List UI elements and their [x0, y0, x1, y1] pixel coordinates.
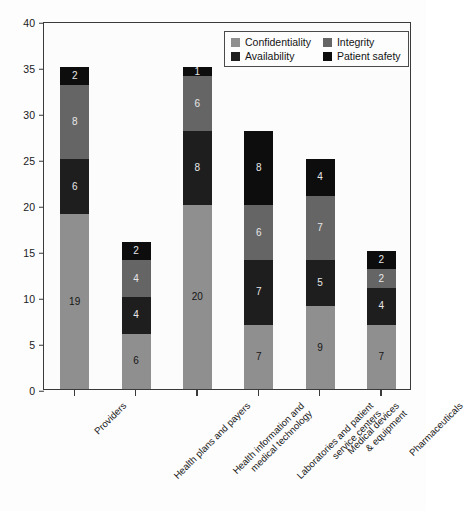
- bar-segment-value: 6: [72, 182, 78, 192]
- bar-segment-value: 7: [256, 352, 262, 362]
- bar-segment[interactable]: 7: [244, 260, 273, 324]
- bar-5[interactable]: 7422: [367, 251, 396, 389]
- bar-segment-value: 7: [256, 287, 262, 297]
- chart-legend: ConfidentialityIntegrityAvailabilityPati…: [224, 31, 409, 67]
- x-axis-tick-mark: [319, 390, 320, 396]
- plot-area: 0510152025303540 19682644220861776895747…: [43, 22, 411, 390]
- legend-label: Integrity: [337, 36, 374, 48]
- y-axis-tick-mark: [39, 160, 44, 161]
- bar-segment-value: 20: [192, 292, 203, 302]
- bar-segment[interactable]: 9: [306, 306, 335, 389]
- x-axis-tick-label: Pharmaceuticals: [407, 400, 465, 458]
- bar-segment[interactable]: 5: [306, 260, 335, 306]
- bar-segment[interactable]: 6: [183, 76, 212, 131]
- x-axis-tick-label: Providers: [92, 400, 128, 436]
- bar-segment[interactable]: 20: [183, 205, 212, 389]
- bar-segment-value: 6: [195, 99, 201, 109]
- legend-swatch-icon: [323, 52, 332, 61]
- legend-item-availability[interactable]: Availability: [231, 50, 311, 62]
- bar-segment[interactable]: 2: [367, 269, 396, 287]
- y-axis-tick-mark: [39, 252, 44, 253]
- bar-segment-value: 7: [317, 223, 323, 233]
- x-axis-label-line: Providers: [92, 400, 128, 436]
- bar-segment-value: 4: [133, 274, 139, 284]
- legend-label: Availability: [245, 50, 294, 62]
- bar-1[interactable]: 6442: [122, 242, 151, 389]
- y-axis-tick-label: 35: [23, 64, 35, 75]
- y-axis-tick-mark: [39, 298, 44, 299]
- legend-label: Patient safety: [337, 50, 401, 62]
- bar-segment-value: 2: [379, 255, 385, 265]
- bar-segment[interactable]: 2: [122, 242, 151, 260]
- bar-segment[interactable]: 2: [60, 67, 89, 85]
- y-axis-tick: 10: [23, 294, 44, 305]
- bar-segment[interactable]: 1: [183, 67, 212, 76]
- legend-item-confidentiality[interactable]: Confidentiality: [231, 36, 311, 48]
- x-axis-tick-mark: [135, 390, 136, 396]
- bar-segment[interactable]: 6: [122, 334, 151, 389]
- x-axis-tick-mark: [74, 390, 75, 396]
- y-axis-tick: 25: [23, 156, 44, 167]
- legend-swatch-icon: [323, 38, 332, 47]
- x-axis-tick-mark: [258, 390, 259, 396]
- bar-segment-value: 4: [317, 172, 323, 182]
- bar-3[interactable]: 7768: [244, 131, 273, 389]
- y-axis-tick-label: 15: [23, 248, 35, 259]
- y-axis-tick: 40: [23, 18, 44, 29]
- bar-segment[interactable]: 4: [122, 297, 151, 334]
- x-axis-label-line: Pharmaceuticals: [407, 400, 465, 458]
- bar-segment[interactable]: 8: [183, 131, 212, 205]
- bar-segment-value: 1: [195, 67, 201, 77]
- bar-segment[interactable]: 4: [122, 260, 151, 297]
- y-axis-tick-mark: [39, 22, 44, 23]
- bar-segment-value: 8: [72, 117, 78, 127]
- y-axis-tick: 30: [23, 110, 44, 121]
- bar-4[interactable]: 9574: [306, 159, 335, 389]
- bar-segment-value: 4: [133, 310, 139, 320]
- bar-segment-value: 6: [133, 356, 139, 366]
- y-axis-tick-label: 5: [29, 340, 35, 351]
- bar-segment[interactable]: 7: [367, 325, 396, 389]
- bar-segment[interactable]: 19: [60, 214, 89, 389]
- bar-0[interactable]: 19682: [60, 67, 89, 389]
- bar-segment-value: 5: [317, 278, 323, 288]
- bar-2[interactable]: 20861: [183, 67, 212, 389]
- y-axis-tick: 20: [23, 202, 44, 213]
- y-axis-tick-label: 25: [23, 156, 35, 167]
- legend-item-patient-safety[interactable]: Patient safety: [323, 50, 401, 62]
- bar-segment[interactable]: 2: [367, 251, 396, 269]
- y-axis-tick: 5: [29, 340, 44, 351]
- bar-segment[interactable]: 6: [60, 159, 89, 214]
- bar-segment[interactable]: 7: [306, 196, 335, 260]
- bar-segment[interactable]: 4: [306, 159, 335, 196]
- bar-segment-value: 8: [256, 163, 262, 173]
- y-axis-tick-mark: [39, 206, 44, 207]
- x-axis-tick-mark: [380, 390, 381, 396]
- x-axis-tick-mark: [196, 390, 197, 396]
- y-axis-tick: 15: [23, 248, 44, 259]
- bar-segment[interactable]: 8: [244, 131, 273, 205]
- bar-segment[interactable]: 8: [60, 85, 89, 159]
- y-axis-tick-label: 30: [23, 110, 35, 121]
- y-axis-tick-label: 0: [29, 386, 35, 397]
- bar-segment-value: 2: [72, 71, 78, 81]
- legend-swatch-icon: [231, 38, 240, 47]
- y-axis-tick-label: 40: [23, 18, 35, 29]
- y-axis-tick-mark: [39, 344, 44, 345]
- bar-segment-value: 4: [379, 301, 385, 311]
- bar-segment[interactable]: 6: [244, 205, 273, 260]
- y-axis-tick: 35: [23, 64, 44, 75]
- bar-segment[interactable]: 7: [244, 325, 273, 389]
- y-axis-tick-label: 20: [23, 202, 35, 213]
- legend-label: Confidentiality: [245, 36, 311, 48]
- bar-segment-value: 2: [133, 246, 139, 256]
- bar-segment-value: 7: [379, 352, 385, 362]
- y-axis-tick: 0: [29, 386, 44, 397]
- bar-segment-value: 19: [69, 297, 80, 307]
- y-axis-tick-mark: [39, 390, 44, 391]
- legend-item-integrity[interactable]: Integrity: [323, 36, 401, 48]
- bar-segment[interactable]: 4: [367, 288, 396, 325]
- y-axis-tick-label: 10: [23, 294, 35, 305]
- bar-segment-value: 9: [317, 343, 323, 353]
